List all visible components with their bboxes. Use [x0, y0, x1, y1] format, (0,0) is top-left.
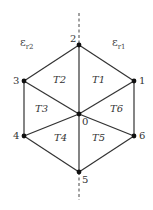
node-0 — [77, 112, 82, 117]
mesh-diagram: 0 1 2 3 4 5 6 T1 T2 T3 T4 T5 T6 εr2 εr1 — [0, 0, 153, 210]
triangle-label-t2: T2 — [53, 75, 66, 85]
region-label-right: εr1 — [112, 37, 126, 51]
node-2 — [77, 43, 82, 48]
triangle-label-t3: T3 — [35, 104, 48, 114]
node-label-5: 5 — [82, 175, 88, 185]
node-6 — [132, 134, 137, 139]
triangle-label-t5: T5 — [92, 133, 105, 143]
triangle-label-t6: T6 — [110, 104, 123, 114]
node-4 — [22, 134, 27, 139]
node-label-2: 2 — [70, 34, 76, 44]
node-1 — [132, 79, 137, 84]
node-label-4: 4 — [13, 131, 19, 141]
mesh-graphic — [0, 0, 153, 210]
triangle-label-t1: T1 — [92, 75, 105, 85]
node-label-0: 0 — [82, 117, 88, 127]
node-3 — [22, 79, 27, 84]
triangle-label-t4: T4 — [54, 133, 67, 143]
node-label-3: 3 — [13, 76, 19, 86]
node-label-1: 1 — [139, 76, 145, 86]
node-label-6: 6 — [139, 131, 145, 141]
region-label-left: εr2 — [20, 37, 34, 51]
node-5 — [77, 170, 82, 175]
